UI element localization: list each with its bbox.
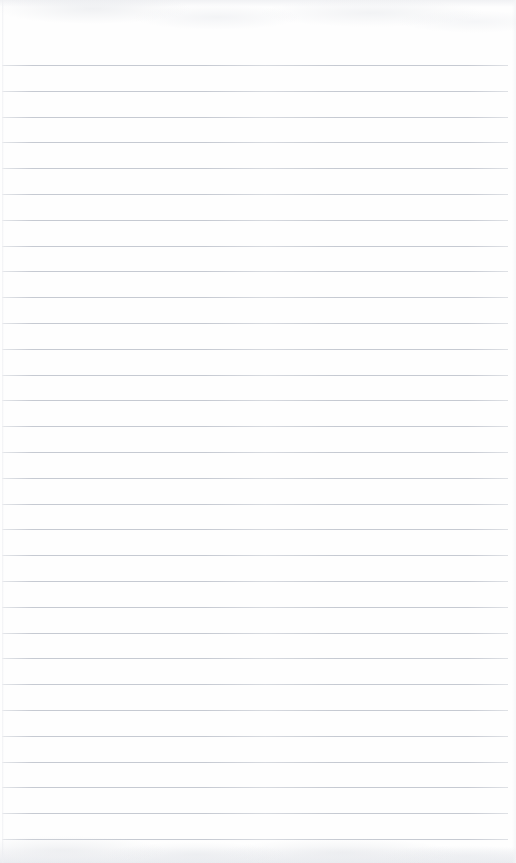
writing-line-row[interactable] (4, 66, 508, 91)
writing-line-row[interactable] (4, 143, 508, 168)
writing-line-row[interactable] (4, 221, 508, 246)
writing-line-row[interactable] (4, 556, 508, 581)
writing-line-row[interactable] (4, 350, 508, 375)
writing-line-row[interactable] (4, 763, 508, 788)
ruled-lines-layer (0, 0, 516, 863)
writing-line-row[interactable] (4, 298, 508, 323)
writing-line-row[interactable] (4, 401, 508, 426)
writing-line-row[interactable] (4, 788, 508, 813)
writing-line-row[interactable] (4, 453, 508, 478)
writing-line-row[interactable] (4, 427, 508, 452)
writing-line-row[interactable] (4, 582, 508, 607)
writing-line-row[interactable] (4, 711, 508, 736)
writing-line-row[interactable] (4, 505, 508, 530)
writing-line-row[interactable] (4, 659, 508, 684)
writing-line-row[interactable] (4, 737, 508, 762)
writing-line-row[interactable] (4, 169, 508, 194)
writing-line-row[interactable] (4, 634, 508, 659)
writing-line-row[interactable] (4, 814, 508, 839)
writing-line-row[interactable] (4, 530, 508, 555)
writing-line-row[interactable] (4, 272, 508, 297)
writing-line-row[interactable] (4, 118, 508, 143)
writing-line-row[interactable] (4, 247, 508, 272)
writing-line-row[interactable] (4, 92, 508, 117)
writing-line-row[interactable] (4, 376, 508, 401)
scanned-page-canvas (0, 0, 516, 863)
rule-line (2, 839, 508, 840)
writing-line-row[interactable] (4, 195, 508, 220)
writing-line-row[interactable] (4, 479, 508, 504)
writing-line-row[interactable] (4, 685, 508, 710)
writing-line-row[interactable] (4, 324, 508, 349)
writing-line-row[interactable] (4, 608, 508, 633)
